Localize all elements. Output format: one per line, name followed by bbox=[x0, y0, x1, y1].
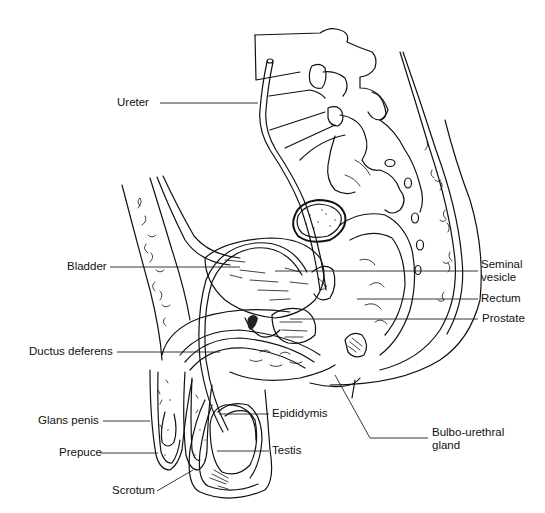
label-seminal-vesicle-line2: vesicle bbox=[481, 271, 516, 283]
penis bbox=[150, 310, 290, 470]
anatomy-figure: Ureter Bladder Ductus deferens Glans pen… bbox=[0, 0, 545, 513]
rectum bbox=[340, 214, 415, 357]
epididymis bbox=[210, 404, 262, 489]
label-rectum: Rectum bbox=[481, 292, 521, 305]
pubic-symphysis bbox=[122, 176, 240, 360]
testis bbox=[210, 405, 257, 474]
label-testis: Testis bbox=[272, 444, 301, 457]
scrotum bbox=[189, 390, 272, 498]
label-bulbo-urethral-line1: Bulbo-urethral bbox=[432, 426, 504, 438]
label-prostate: Prostate bbox=[482, 312, 525, 325]
label-ductus-deferens: Ductus deferens bbox=[29, 345, 113, 358]
ureter-tube bbox=[260, 59, 326, 290]
label-glans-penis: Glans penis bbox=[38, 414, 99, 427]
label-ureter: Ureter bbox=[117, 96, 149, 109]
label-scrotum: Scrotum bbox=[112, 484, 155, 497]
label-bladder: Bladder bbox=[67, 260, 107, 273]
sacrum-vertebrae bbox=[255, 29, 424, 275]
label-bulbo-urethral-line2: gland bbox=[432, 439, 460, 451]
label-prepuce: Prepuce bbox=[59, 446, 102, 459]
perineum bbox=[230, 350, 360, 398]
bladder bbox=[205, 238, 324, 337]
label-bulbo-urethral-gland: Bulbo-urethral gland bbox=[432, 426, 504, 452]
label-seminal-vesicle: Seminal vesicle bbox=[481, 258, 523, 284]
label-seminal-vesicle-line1: Seminal bbox=[481, 258, 523, 270]
label-epididymis: Epididymis bbox=[272, 407, 328, 420]
leader-lines bbox=[101, 103, 478, 491]
back-outline bbox=[330, 52, 481, 385]
